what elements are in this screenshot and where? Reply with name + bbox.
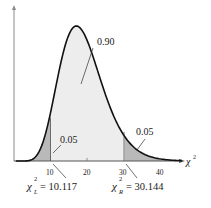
tick-10: 10 — [46, 168, 54, 177]
svg-text:2: 2 — [193, 154, 196, 160]
svg-text:R: R — [118, 188, 123, 195]
x-axis-label: χ — [185, 156, 191, 167]
left-tail-label: 0.05 — [60, 134, 78, 145]
right-tail-pointer — [137, 139, 145, 150]
svg-text:2: 2 — [119, 175, 122, 182]
left-value-pointer — [53, 164, 66, 178]
right-critical-symbol: χ — [111, 180, 118, 192]
right-critical-value: = 30.144 — [126, 181, 164, 192]
tick-40: 40 — [156, 168, 164, 177]
left-critical-value: = 10.117 — [40, 181, 77, 192]
right-tail-label: 0.05 — [136, 126, 154, 137]
right-value-pointer — [126, 164, 137, 178]
chi-square-chart: 0.90 0.05 0.05 χ 2 10 20 30 40 χ 2 L = 1… — [0, 0, 211, 208]
tick-20: 20 — [83, 168, 91, 177]
svg-text:L: L — [33, 188, 38, 195]
svg-text:2: 2 — [34, 175, 37, 182]
middle-area-label: 0.90 — [97, 36, 115, 47]
left-critical-symbol: χ — [26, 180, 33, 192]
left-tail-region — [16, 112, 51, 161]
chart-svg: 0.90 0.05 0.05 χ 2 10 20 30 40 χ 2 L = 1… — [0, 0, 211, 208]
y-axis-arrow-icon — [12, 5, 16, 10]
